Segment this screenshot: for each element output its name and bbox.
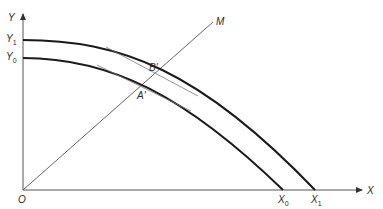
point-b-label: B': [149, 62, 159, 73]
y1-label: Y1: [6, 33, 17, 46]
tangent-a: [97, 65, 191, 111]
x-axis-label: X: [366, 185, 374, 196]
y0-label: Y0: [6, 51, 17, 64]
point-a-label: A': [136, 90, 147, 101]
origin-label: O: [18, 194, 26, 205]
outer-curve: [23, 40, 315, 190]
x1-label: X1: [310, 194, 322, 207]
ray-om: [23, 22, 213, 190]
y-axis-label: Y: [8, 12, 16, 23]
x0-label: X0: [277, 194, 289, 207]
ray-label: M: [216, 16, 225, 27]
production-possibility-diagram: Y X O M Y1 Y0 X0 X1 B' A': [0, 0, 383, 209]
